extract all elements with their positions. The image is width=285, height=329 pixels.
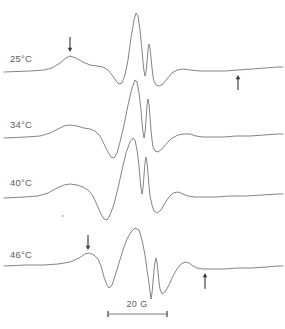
spectrum-curve-trace-40c [4,138,283,220]
spectrum-trace-46c: 46°C [4,228,283,299]
spectrum-curve-trace-34c [4,80,283,158]
arrow-25c-left-head [68,48,73,52]
arrow-46c-right-arrow-icon [203,273,208,289]
arrow-46c-left-head [86,246,91,250]
spectrum-curve-trace-46c [4,228,283,299]
epr-spectra-figure: 25°C34°C40°C46°C20 G [0,0,285,329]
temperature-label-trace-46c: 46°C [10,249,32,260]
arrow-25c-right-arrow-icon [236,75,241,90]
artifact-speck-0 [62,215,64,217]
spectrum-trace-40c: 40°C [4,138,283,220]
temperature-label-trace-25c: 25°C [10,53,32,64]
scale-bar-label: 20 G [126,299,147,309]
spectrum-trace-25c: 25°C [4,13,283,86]
temperature-label-trace-40c: 40°C [10,177,32,188]
arrow-25c-left-arrow-icon [68,37,73,52]
spectrum-trace-34c: 34°C [4,80,283,158]
arrow-25c-right-head [236,75,241,79]
spectrum-curve-trace-25c [4,13,283,86]
temperature-label-trace-34c: 34°C [10,119,32,130]
spectra-plot: 25°C34°C40°C46°C20 G [0,0,285,329]
arrow-46c-right-head [203,273,208,277]
arrow-46c-left-arrow-icon [86,235,91,250]
scale-bar: 20 G [108,299,167,317]
